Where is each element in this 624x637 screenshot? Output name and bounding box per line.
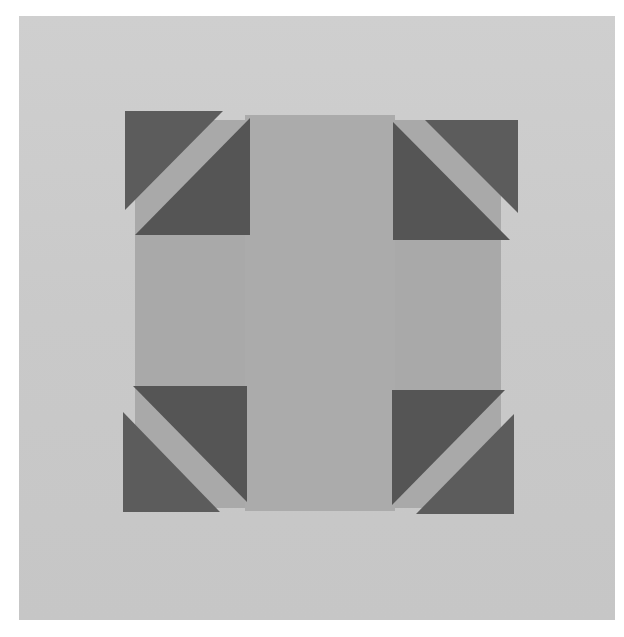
- quilt-block: [0, 0, 624, 637]
- center-fabric: [135, 115, 501, 511]
- center-vertical-bar: [245, 115, 395, 511]
